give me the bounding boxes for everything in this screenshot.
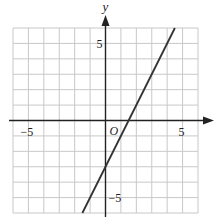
x-tick-label: 5 — [179, 125, 185, 139]
coordinate-plane: xyO−555−5 — [0, 0, 215, 219]
x-tick-label: −5 — [20, 125, 33, 139]
y-tick-label: 5 — [97, 37, 103, 51]
y-axis-arrow-icon — [102, 15, 110, 26]
y-tick-label: −5 — [109, 191, 122, 205]
y-axis-label: y — [101, 0, 109, 14]
x-axis-arrow-icon — [203, 117, 214, 125]
origin-label: O — [110, 124, 119, 138]
